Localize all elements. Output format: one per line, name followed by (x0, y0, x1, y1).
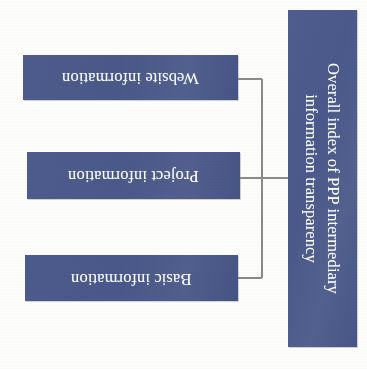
website-information-label: Website information (62, 67, 199, 88)
basic-information-node[interactable]: Basic information (25, 255, 238, 301)
diagram-canvas: Overall index of PPP intermediary inform… (0, 0, 367, 369)
website-information-node[interactable]: Website information (23, 55, 238, 100)
overall-index-line-1: Overall index of PPP intermediary (323, 63, 345, 294)
overall-index-node-text: Overall index of PPP intermediary inform… (288, 63, 357, 294)
project-information-label: Project information (68, 165, 199, 186)
project-information-node[interactable]: Project information (27, 152, 240, 199)
basic-information-label: Basic information (71, 268, 191, 289)
overall-index-line-2: information transparency (301, 94, 323, 263)
overall-index-node[interactable]: Overall index of PPP intermediary inform… (288, 10, 357, 347)
